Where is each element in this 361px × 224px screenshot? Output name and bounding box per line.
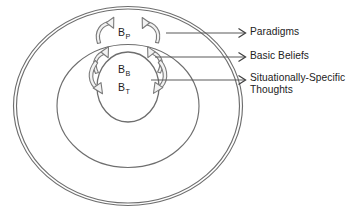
curved-arrow-paradigms-left-head bbox=[106, 17, 114, 28]
label-b-basic-base: B bbox=[118, 63, 125, 75]
label-b-thoughts-base: B bbox=[118, 81, 125, 93]
curved-arrow-paradigms-right-head bbox=[142, 18, 150, 29]
label-b-paradigms-base: B bbox=[118, 26, 125, 38]
callout-label-situationally-specific-thoughts: Situationally-Specific Thoughts bbox=[250, 72, 345, 96]
label-b-thoughts-sub: T bbox=[126, 87, 131, 96]
label-b-basic-sub: B bbox=[126, 69, 131, 78]
callout-label-basic-beliefs: Basic Beliefs bbox=[250, 50, 309, 62]
diagram-canvas: B P B B B T bbox=[0, 0, 361, 224]
pointer-basic-beliefs bbox=[155, 53, 246, 62]
label-b-paradigms-sub: P bbox=[126, 32, 131, 41]
label-b-paradigms: B P bbox=[118, 26, 131, 41]
nested-circles-diagram: B P B B B T Paradigms Basic Beliefs Situ… bbox=[0, 0, 361, 224]
callout-label-paradigms: Paradigms bbox=[250, 26, 299, 38]
